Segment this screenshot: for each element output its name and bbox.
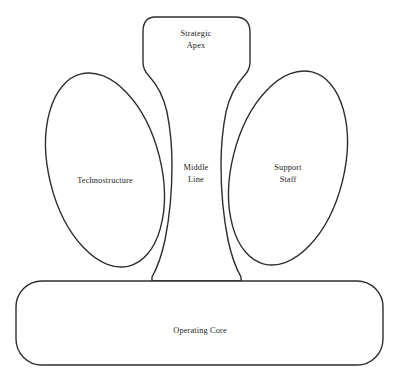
middle-line-label-line2: Line: [188, 175, 204, 184]
strategic-apex-label-line2: Apex: [187, 41, 206, 50]
strategic-apex-and-middle-line-shape: [143, 17, 250, 281]
operating-core-shape: [16, 281, 383, 365]
strategic-apex-label-line1: Strategic: [181, 29, 212, 38]
org-structure-diagram: Strategic Apex Middle Line Technostructu…: [0, 0, 401, 382]
diagram-canvas: Strategic Apex Middle Line Technostructu…: [0, 0, 401, 382]
technostructure-label: Technostructure: [77, 176, 133, 185]
middle-line-label-line1: Middle: [184, 163, 209, 172]
technostructure-shape: [27, 60, 184, 279]
operating-core-label: Operating Core: [173, 326, 227, 335]
support-staff-label-line1: Support: [274, 163, 302, 172]
support-staff-label-line2: Staff: [280, 175, 297, 184]
